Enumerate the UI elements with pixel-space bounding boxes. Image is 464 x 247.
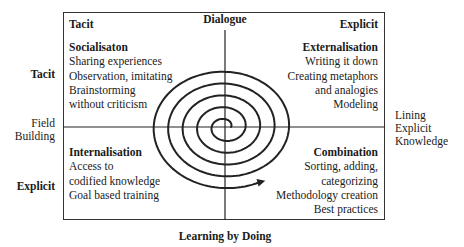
quadrant-item: Methodology creation	[268, 188, 378, 202]
quadrant-item: categorizing	[268, 174, 378, 188]
left-axis-tacit: Tacit	[0, 67, 55, 81]
top-axis-label: Dialogue	[195, 12, 255, 26]
quadrant-item: Sharing experiences	[69, 54, 172, 68]
right-axis-knowledge: Knowledge	[395, 134, 448, 148]
quadrant-item: without criticism	[69, 97, 172, 111]
quadrant-combination: Combination Sorting, adding, categorizin…	[268, 145, 378, 216]
quadrant-item: Best practices	[268, 202, 378, 216]
bottom-axis-label: Learning by Doing	[165, 229, 285, 243]
quadrant-item: codified knowledge	[69, 174, 160, 188]
quadrant-item: Goal based training	[69, 188, 160, 202]
corner-label-explicit: Explicit	[330, 17, 378, 31]
quadrant-item: Access to	[69, 159, 160, 173]
quadrant-item: Brainstorming	[69, 83, 172, 97]
quadrant-title: Internalisation	[69, 145, 160, 159]
quadrant-externalisation: Externalisation Writing it down Creating…	[278, 40, 378, 111]
quadrant-internalisation: Internalisation Access to codified knowl…	[69, 145, 160, 202]
quadrant-title: Combination	[268, 145, 378, 159]
corner-label-tacit: Tacit	[69, 17, 94, 31]
spiral-arrowhead-icon	[257, 179, 266, 187]
left-axis-building: Building	[0, 129, 55, 143]
quadrant-title: Externalisation	[278, 40, 378, 54]
left-axis-field: Field	[0, 116, 55, 130]
quadrant-item: Writing it down	[278, 54, 378, 68]
left-axis-explicit: Explicit	[0, 179, 55, 193]
quadrant-socialisation: Socialisaton Sharing experiences Observa…	[69, 40, 172, 111]
quadrant-item: Observation, imitating	[69, 69, 172, 83]
right-axis-lining: Lining	[395, 108, 426, 122]
quadrant-item: Modeling	[278, 97, 378, 111]
quadrant-item: Creating metaphors	[278, 69, 378, 83]
quadrant-title: Socialisaton	[69, 40, 172, 54]
quadrant-item: and analogies	[278, 83, 378, 97]
right-axis-explicit: Explicit	[395, 121, 431, 135]
quadrant-item: Sorting, adding,	[268, 159, 378, 173]
